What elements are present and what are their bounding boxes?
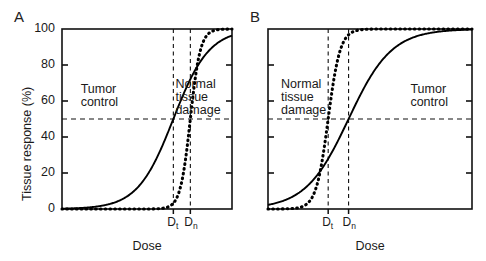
panel-B-dose-label-Dt: Dt [322, 215, 333, 231]
panel-B-region-label-1: Tumorcontrol [410, 83, 448, 109]
panel-B-plot [0, 0, 486, 261]
panel-B-dose-label-Dn: Dn [343, 215, 356, 231]
dose-label-base: D [322, 215, 331, 229]
panel-B-x-axis-title: Dose [355, 239, 384, 253]
figure-dose-response: A020406080100DtDnTumorcontrolNormaltissu… [0, 0, 486, 261]
panel-B-curve-tumor-control [268, 30, 472, 205]
dose-label-subscript: n [351, 221, 356, 231]
region-label-line: damage [281, 104, 326, 117]
dose-label-subscript: t [331, 221, 333, 231]
panel-B-region-label-0: Normaltissuedamage [281, 78, 326, 117]
region-label-line: control [410, 96, 448, 109]
dose-label-base: D [343, 215, 352, 229]
